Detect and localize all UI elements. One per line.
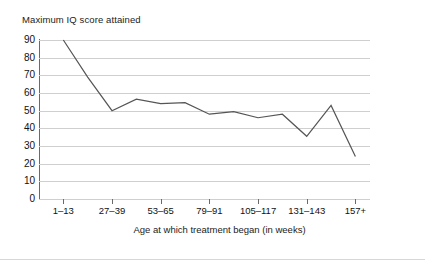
gridline	[39, 75, 370, 76]
gridline	[39, 199, 370, 200]
x-axis-tick	[258, 199, 259, 204]
x-axis-tick	[355, 199, 356, 204]
x-axis-tick-label: 53–65	[147, 205, 173, 216]
y-axis-tick-label: 40	[9, 123, 35, 133]
x-axis-tick-label: 131–143	[288, 205, 325, 216]
gridline	[39, 146, 370, 147]
chart-screenshot: Maximum IQ score attained 90807060504030…	[0, 0, 425, 266]
gridline	[39, 93, 370, 94]
x-axis-tick-label: 105–117	[240, 205, 276, 216]
y-axis-tick-label: 0	[9, 194, 35, 204]
y-axis-tick-label: 90	[9, 35, 35, 45]
x-axis-tick	[63, 199, 64, 204]
gridline	[39, 58, 370, 59]
gridline	[39, 40, 370, 41]
x-axis-title-text: Age at which treatment began (in weeks)	[119, 224, 305, 235]
x-axis-tick-label: 79–91	[196, 205, 222, 216]
x-axis-tick	[209, 199, 210, 204]
y-axis-tick-label: 10	[9, 176, 35, 186]
frame-bottom-divider	[0, 259, 425, 260]
y-axis-tick-label: 20	[9, 159, 35, 169]
y-axis-tick-label: 50	[9, 106, 35, 116]
gridline	[39, 111, 370, 112]
x-axis-title: Age at which treatment began (in weeks)	[0, 224, 425, 235]
y-axis-tick-labels: 9080706050403020100	[7, 40, 35, 199]
x-axis-tick	[307, 199, 308, 204]
y-axis-tick-label: 70	[9, 70, 35, 80]
x-axis-tick	[161, 199, 162, 204]
plot-area	[39, 40, 370, 199]
x-axis-tick-label: 157+	[345, 205, 366, 216]
y-axis-tick-label: 60	[9, 88, 35, 98]
gridline	[39, 128, 370, 129]
x-axis-tick-label: 1–13	[53, 205, 74, 216]
chart-title: Maximum IQ score attained	[22, 14, 141, 25]
gridline	[39, 164, 370, 165]
y-axis-tick-label: 30	[9, 141, 35, 151]
gridline	[39, 181, 370, 182]
x-axis-tick-label: 27–39	[99, 205, 125, 216]
y-axis-tick-label: 80	[9, 53, 35, 63]
x-axis-tick	[112, 199, 113, 204]
